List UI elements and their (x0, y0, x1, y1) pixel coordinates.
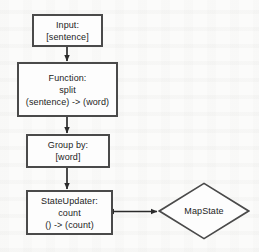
node-map-state[interactable]: MapState (158, 182, 250, 240)
node-group-by[interactable]: Group by: [word] (26, 134, 110, 168)
node-group-by-line-2: [word] (55, 151, 80, 163)
node-state-updater-line-2: count (58, 207, 81, 219)
node-function[interactable]: Function: split (sentence) -> (word) (17, 62, 118, 117)
node-function-line-1: Function: (49, 72, 87, 84)
node-state-updater[interactable]: StateUpdater: count () -> (count) (26, 190, 113, 235)
node-input-line-1: Input: (56, 19, 79, 31)
node-function-line-3: (sentence) -> (word) (26, 96, 109, 108)
node-function-line-2: split (59, 84, 76, 96)
flowchart-canvas: Input: [sentence] Function: split (sente… (0, 0, 259, 252)
node-input-line-2: [sentence] (46, 31, 89, 43)
node-map-state-label: MapState (184, 206, 223, 216)
node-state-updater-line-3: () -> (count) (45, 219, 94, 231)
node-group-by-line-1: Group by: (48, 139, 88, 151)
node-state-updater-line-1: StateUpdater: (41, 195, 98, 207)
node-input[interactable]: Input: [sentence] (32, 14, 103, 47)
